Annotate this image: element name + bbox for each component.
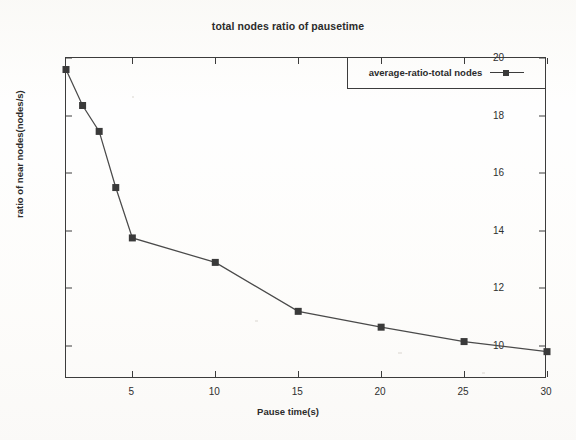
x-tick-label: 30 (526, 386, 566, 397)
x-tick-label: 5 (111, 386, 151, 397)
data-point-marker (212, 259, 219, 266)
x-tick-label: 15 (277, 386, 317, 397)
x-tick-mark (547, 58, 548, 64)
x-tick-label: 25 (443, 386, 483, 397)
data-point-marker (79, 102, 86, 109)
chart-title: total nodes ratio of pausetime (0, 20, 576, 32)
chart-screenshot: total nodes ratio of pausetime ratio of … (0, 0, 576, 440)
legend-line-marker-icon (490, 68, 524, 78)
x-tick-label: 20 (360, 386, 400, 397)
data-point-marker (461, 338, 468, 345)
x-tick-label: 10 (194, 386, 234, 397)
data-point-marker (295, 308, 302, 315)
data-point-marker (112, 184, 119, 191)
series-line (66, 70, 547, 352)
data-point-marker (544, 348, 551, 355)
data-point-marker (129, 234, 136, 241)
legend-entry-label: average-ratio-total nodes (369, 67, 483, 78)
x-tick-mark (547, 371, 548, 377)
plot-area (65, 57, 546, 378)
data-series-layer (66, 58, 547, 379)
y-axis-label: ratio of near nodes(nodes/s) (14, 90, 25, 218)
legend: average-ratio-total nodes (347, 57, 546, 89)
data-point-marker (63, 66, 70, 73)
data-point-marker (378, 324, 385, 331)
x-axis-label: Pause time(s) (0, 406, 576, 417)
data-point-marker (96, 128, 103, 135)
